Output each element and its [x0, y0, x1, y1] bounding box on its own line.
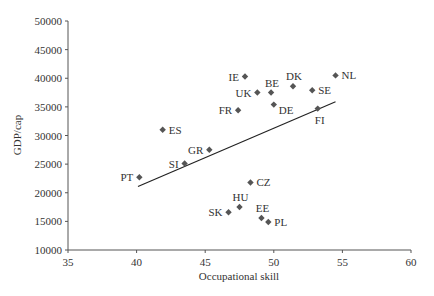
- scatter-chart: 1000015000200002500030000350004000045000…: [0, 0, 434, 296]
- diamond-marker-icon: [271, 101, 277, 107]
- x-tick-label: 35: [63, 256, 75, 268]
- diamond-marker-icon: [254, 89, 260, 95]
- point-label: GR: [188, 144, 204, 156]
- data-point-uk: UK: [235, 87, 260, 99]
- data-point-de: DE: [271, 101, 294, 115]
- diamond-marker-icon: [225, 209, 231, 215]
- point-label: UK: [235, 87, 251, 99]
- diamond-marker-icon: [159, 127, 165, 133]
- point-label: FR: [219, 104, 233, 116]
- axes: 1000015000200002500030000350004000045000…: [35, 15, 418, 268]
- point-label: SK: [208, 206, 222, 218]
- point-label: DE: [279, 104, 294, 116]
- diamond-marker-icon: [242, 73, 248, 79]
- diamond-marker-icon: [268, 89, 274, 95]
- point-label: SE: [318, 84, 331, 96]
- point-label: FI: [315, 114, 325, 126]
- point-label: BE: [265, 77, 279, 89]
- point-label: CZ: [256, 176, 270, 188]
- x-axis-label: Occupational skill: [199, 270, 279, 282]
- data-point-fi: FI: [315, 105, 325, 125]
- data-point-se: SE: [309, 84, 331, 96]
- y-axis-label: GDP/cap: [11, 114, 23, 155]
- point-label: EE: [256, 202, 270, 214]
- y-tick-label: 50000: [35, 15, 63, 27]
- point-label: HU: [233, 191, 249, 203]
- point-label: DK: [286, 70, 302, 82]
- diamond-marker-icon: [206, 147, 212, 153]
- data-point-fr: FR: [219, 104, 242, 116]
- y-tick-label: 30000: [35, 130, 63, 142]
- data-point-be: BE: [265, 77, 279, 96]
- diamond-marker-icon: [332, 72, 338, 78]
- data-point-hu: HU: [233, 191, 249, 210]
- data-point-cz: CZ: [247, 176, 271, 188]
- data-point-ie: IE: [229, 71, 249, 83]
- diamond-marker-icon: [247, 179, 253, 185]
- x-tick-label: 50: [268, 256, 280, 268]
- point-label: ES: [169, 124, 182, 136]
- diamond-marker-icon: [235, 107, 241, 113]
- data-point-pt: PT: [121, 171, 143, 183]
- x-tick-label: 60: [406, 256, 418, 268]
- data-point-sk: SK: [208, 206, 231, 218]
- y-tick-label: 25000: [35, 158, 63, 170]
- x-tick-label: 45: [200, 256, 212, 268]
- data-points: PTESSIGRFRIEUKBEDEDKSENLFICZHUSKEEPL: [121, 69, 357, 228]
- data-point-nl: NL: [332, 69, 356, 81]
- x-tick-label: 55: [337, 256, 349, 268]
- point-label: PL: [274, 216, 287, 228]
- diamond-marker-icon: [136, 174, 142, 180]
- y-tick-label: 10000: [35, 244, 63, 256]
- trendline: [138, 102, 336, 187]
- y-tick-label: 35000: [35, 101, 63, 113]
- y-tick-label: 20000: [35, 187, 63, 199]
- point-label: PT: [121, 171, 134, 183]
- point-label: NL: [342, 69, 357, 81]
- point-label: SI: [169, 158, 179, 170]
- data-point-es: ES: [159, 124, 181, 136]
- y-tick-label: 15000: [35, 215, 63, 227]
- diamond-marker-icon: [258, 215, 264, 221]
- data-point-dk: DK: [286, 70, 302, 89]
- point-label: IE: [229, 71, 240, 83]
- y-tick-label: 40000: [35, 72, 63, 84]
- diamond-marker-icon: [290, 83, 296, 89]
- data-point-si: SI: [169, 158, 188, 170]
- data-point-pl: PL: [265, 216, 287, 228]
- diamond-marker-icon: [309, 87, 315, 93]
- diamond-marker-icon: [236, 204, 242, 210]
- data-point-ee: EE: [256, 202, 270, 221]
- x-tick-label: 40: [131, 256, 143, 268]
- y-tick-label: 45000: [35, 44, 63, 56]
- diamond-marker-icon: [265, 219, 271, 225]
- regression-line: [138, 102, 336, 187]
- data-point-gr: GR: [188, 144, 212, 156]
